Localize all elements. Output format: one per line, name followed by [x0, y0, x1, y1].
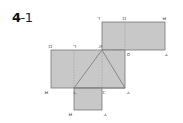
label-top-m: ㅁ	[122, 15, 127, 21]
label-top-g: ㄱ	[96, 15, 101, 21]
label-mid-o: ㅇ	[126, 51, 131, 57]
label-mid-r: ㄹ	[98, 43, 103, 49]
label-mid-m: ㅁ	[48, 43, 53, 49]
label-low-n: ㄴ	[73, 89, 78, 95]
label-low-s: ㅅ	[126, 89, 131, 95]
label-bot-s: ㅅ	[103, 111, 108, 117]
label-low-d: ㄷ	[102, 89, 107, 95]
label-mid-s: ㅅ	[164, 51, 169, 57]
label-mid-g: ㄱ	[72, 43, 77, 49]
label-top-b: ㅂ	[162, 15, 167, 21]
top-face	[102, 22, 165, 50]
net-diagram: ㄱ ㅁ ㅂ ㅁ ㄱ ㄹ ㅇ ㅅ ㅂ ㄴ ㄷ ㅅ ㅂ ㅅ	[0, 0, 183, 123]
bottom-face	[74, 88, 102, 110]
label-low-b: ㅂ	[44, 89, 49, 95]
label-bot-b: ㅂ	[68, 111, 73, 117]
